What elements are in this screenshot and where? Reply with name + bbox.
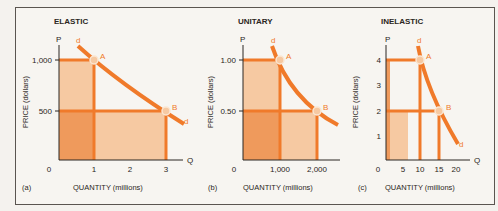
svg-text:2: 2	[128, 165, 133, 174]
svg-text:B: B	[323, 103, 328, 112]
svg-text:d: d	[271, 36, 275, 45]
svg-text:PRICE (dollars): PRICE (dollars)	[206, 75, 215, 128]
svg-text:P: P	[56, 35, 61, 44]
svg-text:d: d	[417, 36, 421, 45]
svg-text:Q: Q	[474, 156, 480, 165]
svg-text:0: 0	[232, 165, 237, 174]
svg-text:PRICE (dollars): PRICE (dollars)	[351, 75, 360, 128]
svg-text:d: d	[76, 36, 80, 45]
title-elastic: ELASTIC	[54, 17, 88, 26]
svg-text:(b): (b)	[208, 183, 218, 192]
svg-text:0: 0	[47, 165, 52, 174]
title-inelastic: INELASTIC	[381, 17, 423, 26]
svg-text:d: d	[184, 117, 188, 126]
svg-text:P: P	[385, 35, 390, 44]
svg-text:PRICE (dollars): PRICE (dollars)	[21, 75, 30, 128]
panel-elastic: ELASTIC P d A B d 1,000 500 0 1 2 3 Q (a…	[21, 17, 193, 192]
svg-text:2,000: 2,000	[307, 165, 328, 174]
svg-text:5: 5	[401, 165, 406, 174]
svg-text:P: P	[240, 35, 245, 44]
svg-text:1,000: 1,000	[32, 56, 53, 65]
svg-text:1: 1	[377, 132, 382, 141]
svg-text:A: A	[426, 52, 432, 61]
elasticity-figure: ELASTIC P d A B d 1,000 500 0 1 2 3 Q (a…	[0, 0, 498, 211]
svg-text:QUANTITY (millions): QUANTITY (millions)	[243, 183, 313, 192]
panel-inelastic: INELASTIC P d A B d 4 3 2 1 0 5 10 15 20…	[351, 17, 480, 192]
svg-text:500: 500	[39, 107, 53, 116]
title-unitary: UNITARY	[238, 17, 273, 26]
svg-text:A: A	[286, 52, 292, 61]
svg-text:3: 3	[164, 165, 169, 174]
svg-text:QUANTITY (millions): QUANTITY (millions)	[385, 183, 455, 192]
svg-text:10: 10	[416, 165, 425, 174]
svg-text:0.50: 0.50	[220, 107, 236, 116]
svg-text:3: 3	[377, 81, 382, 90]
svg-text:2: 2	[377, 107, 382, 116]
svg-text:4: 4	[377, 56, 382, 65]
svg-text:1.00: 1.00	[220, 56, 236, 65]
svg-text:1: 1	[92, 165, 97, 174]
svg-text:1,000: 1,000	[270, 165, 291, 174]
svg-text:(a): (a)	[22, 183, 32, 192]
svg-text:15: 15	[435, 165, 444, 174]
svg-text:Q: Q	[187, 156, 193, 165]
panel-unitary: UNITARY P d A B 1.00 0.50 0 1,000 2,000 …	[206, 17, 340, 192]
svg-text:B: B	[172, 103, 177, 112]
svg-text:A: A	[100, 52, 106, 61]
svg-text:d: d	[459, 140, 463, 149]
svg-text:(c): (c)	[358, 183, 367, 192]
svg-text:20: 20	[452, 165, 461, 174]
svg-text:QUANTITY (millions): QUANTITY (millions)	[73, 183, 143, 192]
svg-text:B: B	[446, 103, 451, 112]
svg-text:0: 0	[376, 165, 381, 174]
